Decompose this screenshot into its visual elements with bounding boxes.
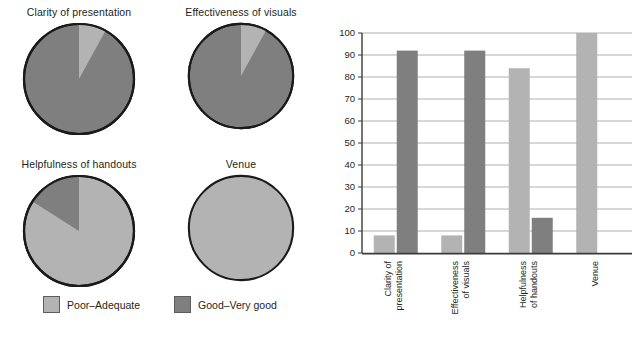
pie-cell-handouts: Helpfulness of handouts	[4, 158, 154, 289]
y-axis-tick-label: 70	[344, 93, 355, 104]
bar-poor-adequate	[441, 235, 462, 253]
y-axis-tick-label: 50	[344, 137, 355, 148]
y-axis-tick-label: 40	[344, 159, 355, 170]
y-axis-tick-label: 20	[344, 203, 355, 214]
x-axis-category-label: of visuals	[461, 261, 471, 299]
pie-chart-effectiveness	[186, 21, 296, 131]
legend-entry-poor-adequate: Poor–Adequate	[43, 296, 140, 313]
x-axis-category-label: Effectiveness	[450, 261, 460, 315]
pie-title-handouts: Helpfulness of handouts	[4, 158, 154, 170]
bar-chart: 0102030405060708090100 Clarity ofpresent…	[320, 0, 639, 339]
legend-label-poor-adequate: Poor–Adequate	[67, 299, 140, 311]
y-axis-ticks: 0102030405060708090100	[339, 27, 362, 258]
pie-chart-clarity	[21, 21, 137, 137]
bar-poor-adequate	[509, 68, 530, 253]
y-axis-tick-label: 30	[344, 181, 355, 192]
y-axis-tick-label: 80	[344, 71, 355, 82]
pie-chart-handouts	[21, 173, 137, 289]
y-axis-tick-label: 10	[344, 225, 355, 236]
x-axis-category-label: of handouts	[529, 261, 539, 309]
pie-cell-effectiveness: Effectiveness of visuals	[166, 6, 316, 131]
y-axis-tick-label: 60	[344, 115, 355, 126]
pie-svg-wrap-clarity	[4, 21, 154, 137]
bar-good-very-good	[464, 51, 485, 253]
pie-cell-clarity: Clarity of presentation	[4, 6, 154, 137]
bar-poor-adequate	[576, 33, 597, 253]
figure-container: Clarity of presentation Effectiveness of…	[0, 0, 639, 339]
legend: Poor–Adequate Good–Very good	[0, 296, 320, 313]
bar-poor-adequate	[374, 235, 395, 253]
x-axis-category-label: Helpfulness	[518, 261, 528, 309]
x-axis-category-label: Clarity of	[383, 261, 393, 297]
pie-chart-panel: Clarity of presentation Effectiveness of…	[0, 0, 320, 339]
pie-chart-venue	[186, 173, 296, 283]
pie-slice-poor-adequate-venue	[189, 176, 293, 280]
y-axis-tick-label: 90	[344, 49, 355, 60]
x-axis-category-labels: Clarity ofpresentationEffectivenessof vi…	[383, 261, 601, 315]
pie-title-venue: Venue	[166, 158, 316, 170]
bar-good-very-good	[397, 51, 418, 253]
pie-cell-venue: Venue	[166, 158, 316, 283]
legend-entry-good-very-good: Good–Very good	[174, 296, 277, 313]
y-axis-tick-label: 0	[350, 247, 355, 258]
x-axis-category-label: presentation	[394, 261, 404, 311]
pie-svg-wrap-venue	[166, 173, 316, 283]
bar-chart-panel: Percentage 0102030405060708090100 Clarit…	[320, 0, 639, 339]
y-axis-tick-label: 100	[339, 27, 355, 38]
pie-svg-wrap-effectiveness	[166, 21, 316, 131]
bar-good-very-good	[532, 218, 553, 253]
pie-svg-wrap-handouts	[4, 173, 154, 289]
x-axis-category-label: Venue	[590, 261, 600, 287]
legend-label-good-very-good: Good–Very good	[198, 299, 277, 311]
legend-swatch-poor-adequate	[43, 296, 60, 313]
pie-title-effectiveness: Effectiveness of visuals	[166, 6, 316, 18]
legend-swatch-good-very-good	[174, 296, 191, 313]
pie-title-clarity: Clarity of presentation	[4, 6, 154, 18]
